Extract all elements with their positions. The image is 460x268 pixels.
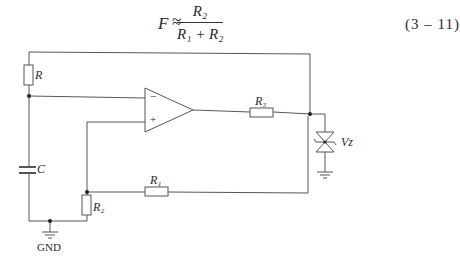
junction-node [48,219,52,223]
label-vz: Vz [341,135,353,150]
junction-node [85,190,89,194]
label-gnd: GND [37,241,61,253]
label-r2: R₂ [93,200,105,215]
resistor-r2 [82,195,91,215]
junction-node [308,112,312,116]
label-r: R [35,68,42,83]
label-r1: R₁ [150,173,162,188]
resistor-r [24,65,33,85]
label-inverting: − [150,90,156,102]
resistor-r1 [145,187,168,196]
resistor-r3 [250,108,273,117]
junction-node [27,94,31,98]
junction-node [324,141,327,144]
top-feedback-wire [29,52,310,116]
circuit-diagram [0,0,460,268]
label-noninverting: + [150,113,156,125]
label-r3: R₃ [255,94,267,109]
label-c: C [37,162,45,177]
